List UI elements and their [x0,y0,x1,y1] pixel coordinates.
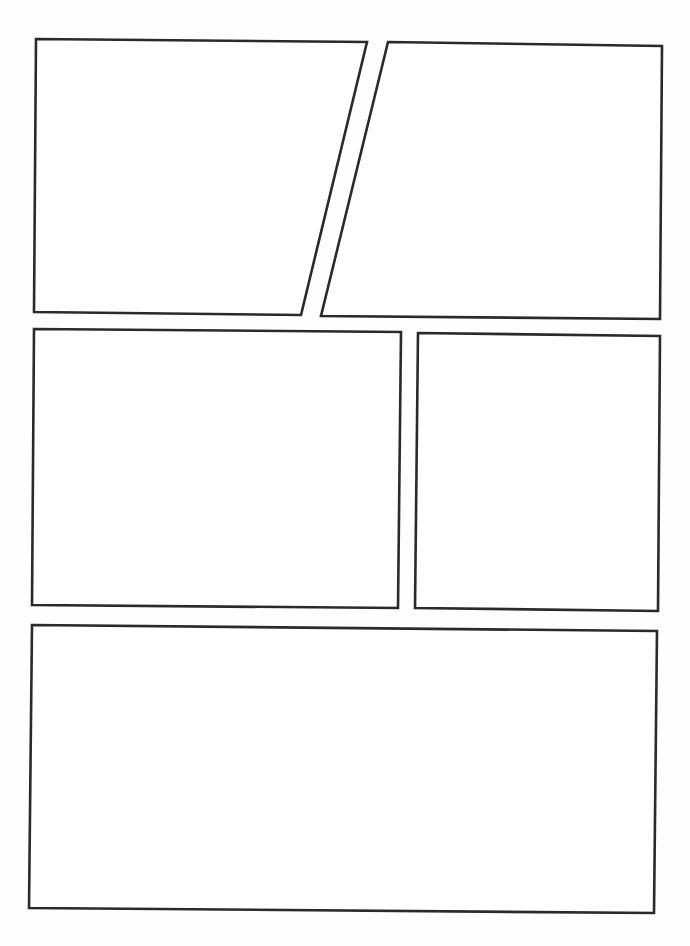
panel-middle-right [415,333,660,611]
panel-top-right [321,42,662,319]
panel-bottom-wide [29,625,657,913]
panel-layout [0,0,690,946]
panel-top-left [34,39,367,315]
panel-middle-left [32,329,401,608]
comic-page [0,0,690,946]
